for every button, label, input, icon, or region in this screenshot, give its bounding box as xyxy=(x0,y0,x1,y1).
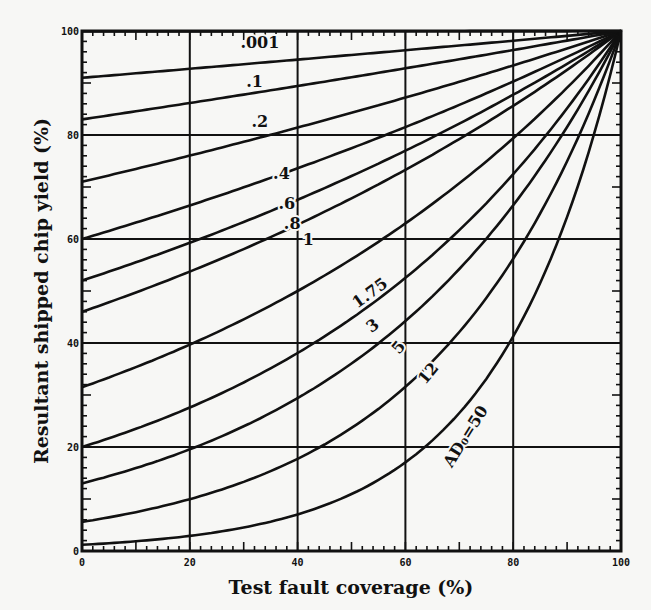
y-tick-label: 0 xyxy=(73,546,79,557)
yield-curves xyxy=(82,31,621,545)
curve-label: .001 xyxy=(240,33,279,52)
x-tick-label: 20 xyxy=(184,557,196,568)
plot-frame xyxy=(82,31,621,551)
curve-label: 1 xyxy=(303,230,314,249)
yield-curve-5 xyxy=(82,31,621,483)
x-tick-label: 60 xyxy=(399,557,411,568)
y-tick-label: 60 xyxy=(67,234,79,245)
x-tick-label: 100 xyxy=(612,557,630,568)
x-axis-title: Test fault coverage (%) xyxy=(229,576,474,598)
yield-curve-2 xyxy=(82,31,621,119)
y-tick-label: 80 xyxy=(67,130,79,141)
y-tick-label: 100 xyxy=(61,26,79,37)
curve-labels: .001.1.2.4.6.811.753512AD₀=50 xyxy=(240,33,491,472)
x-tick-label: 0 xyxy=(79,557,85,568)
yield-curve-175 xyxy=(82,31,621,387)
curve-label: .6 xyxy=(278,194,295,213)
grid-lines xyxy=(82,31,621,551)
x-tick-labels: 020406080100 xyxy=(79,557,630,568)
y-tick-label: 40 xyxy=(67,338,79,349)
y-axis-title: Resultant shipped chip yield (%) xyxy=(30,118,52,464)
curve-label: .4 xyxy=(273,164,290,183)
y-tick-label: 20 xyxy=(67,442,79,453)
curve-label: AD₀=50 xyxy=(439,402,492,471)
curve-label: 12 xyxy=(414,359,443,388)
yield-curve-12 xyxy=(82,31,621,522)
y-tick-labels: 020406080100 xyxy=(61,26,79,557)
curve-label: .8 xyxy=(284,214,301,233)
x-tick-label: 80 xyxy=(507,557,519,568)
axis-ticks xyxy=(82,31,621,551)
curve-label: .1 xyxy=(246,72,263,91)
curve-label: 3 xyxy=(362,315,382,337)
yield-curve-1 xyxy=(82,31,621,312)
curve-label: .2 xyxy=(252,112,269,131)
chart-canvas: 020406080100 020406080100 .001.1.2.4.6.8… xyxy=(0,0,651,610)
x-tick-label: 40 xyxy=(292,557,304,568)
